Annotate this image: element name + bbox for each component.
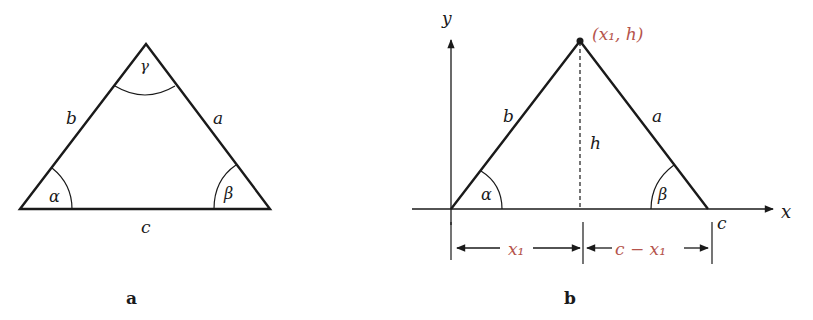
angle-alpha-label: α	[49, 187, 60, 206]
x-axis-label: x	[781, 201, 791, 222]
side-c-label-b: c	[717, 213, 727, 233]
dim-label-x1: x₁	[508, 239, 524, 259]
figure-a: γ b a α β c a	[20, 44, 270, 308]
figure-b-caption: b	[564, 288, 576, 308]
figure-b: y x (x₁, h) b a h α β c x₁ c − x₁ b	[412, 8, 791, 308]
side-c-label: c	[141, 217, 151, 237]
angle-alpha-label-b: α	[481, 185, 492, 204]
side-b-label: b	[66, 108, 77, 128]
height-label: h	[590, 133, 601, 153]
angle-arc-gamma	[115, 86, 175, 95]
y-axis-label: y	[441, 8, 452, 28]
figure-a-caption: a	[126, 288, 137, 308]
side-a-label-b: a	[652, 106, 662, 126]
dim-label-c-minus-x1: c − x₁	[615, 239, 666, 259]
apex-coordinate-label: (x₁, h)	[592, 24, 643, 44]
diagram-canvas: γ b a α β c a y x (x₁, h) b a h α β c x₁	[0, 0, 813, 320]
angle-beta-label-b: β	[657, 185, 667, 204]
angle-gamma-label: γ	[140, 57, 149, 75]
angle-beta-label: β	[223, 184, 233, 203]
side-a-label: a	[213, 108, 223, 128]
side-b-label-b: b	[503, 106, 514, 126]
